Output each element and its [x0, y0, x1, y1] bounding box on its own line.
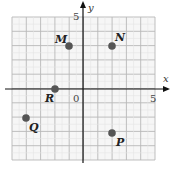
x-axis-label: x — [163, 73, 169, 84]
x-tick-5: 5 — [150, 93, 156, 104]
origin-label: 0 — [73, 93, 79, 104]
point-p — [108, 129, 116, 137]
y-axis-arrow-icon — [80, 1, 86, 8]
label-q: Q — [29, 121, 39, 134]
coordinate-plane: x y 5 5 0 M N R Q P — [0, 0, 178, 187]
y-tick-5: 5 — [73, 11, 79, 22]
x-axis-arrow-icon — [163, 86, 170, 92]
label-n: N — [114, 31, 126, 44]
label-m: M — [54, 33, 68, 46]
label-r: R — [44, 92, 54, 105]
label-p: P — [115, 136, 125, 149]
y-axis-label: y — [87, 2, 94, 13]
